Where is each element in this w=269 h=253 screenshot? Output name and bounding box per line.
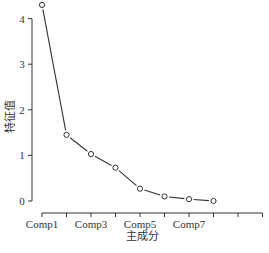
data-point-marker [39,2,44,7]
x-axis: Comp1Comp3Comp5Comp7 [26,213,263,230]
y-tick-label: 2 [19,104,25,116]
data-point-marker [186,197,191,202]
y-tick-label: 4 [19,13,25,25]
eigenvalue-series [39,2,216,203]
data-point-marker [64,132,69,137]
data-point-marker [88,151,93,156]
x-tick-label: Comp3 [75,218,108,230]
y-tick-label: 0 [19,195,25,207]
y-tick-label: 3 [19,58,25,70]
data-point-marker [137,186,142,191]
scree-plot: 01234 Comp1Comp3Comp5Comp7 特征值 主成分 [0,0,269,253]
y-axis: 01234 [19,13,32,207]
data-point-marker [211,198,216,203]
x-tick-label: Comp7 [173,218,206,230]
y-tick-label: 1 [19,149,25,161]
data-point-marker [113,165,118,170]
data-point-marker [162,194,167,199]
x-tick-label: Comp1 [26,218,58,230]
x-tick-label: Comp5 [124,218,157,230]
y-axis-title: 特征值 [3,100,17,133]
x-axis-title: 主成分 [126,230,159,243]
